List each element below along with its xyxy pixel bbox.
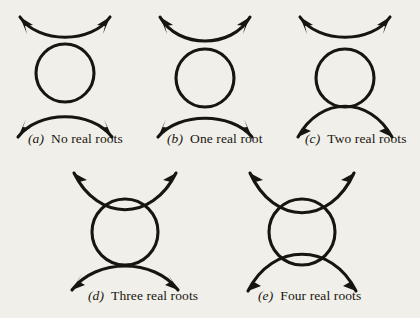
arrowhead-d-lower-left [72,274,85,290]
panel-b-diagram [140,0,280,148]
upper-arc-b [160,17,250,41]
upper-arc-c [300,17,390,37]
panel-one-real-root [140,0,280,148]
arrowheads-a [18,17,112,137]
upper-arc-e [250,173,354,213]
caption-tag-d: (d) [88,288,104,303]
arrowhead-d-upper-left [74,173,87,190]
caption-tag-c: (c) [305,131,320,146]
caption-text-e: Four real roots [280,288,361,303]
circle-c [316,49,374,107]
arrowheads-d [72,173,178,290]
arrowhead-a-upper-right [97,17,110,34]
arrowheads-e [248,173,356,291]
caption-text-b: One real root [190,131,263,146]
caption-panel-d: (d)Three real roots [88,288,198,304]
caption-panel-c: (c)Two real roots [305,131,406,147]
upper-arc-a [20,17,110,37]
lower-arc-e [248,254,356,291]
arrowhead-d-upper-right [163,173,176,190]
caption-panel-e: (e)Four real roots [258,288,361,304]
arrowhead-a-upper-left [20,17,33,34]
upper-arc-d [74,173,176,210]
caption-text-a: No real roots [51,131,123,146]
lower-arc-d [72,266,178,290]
panel-a-diagram [0,0,140,148]
caption-text-d: Three real roots [111,288,198,303]
arrowhead-c-upper-left [300,17,313,34]
circle-a [36,44,94,102]
caption-text-c: Two real roots [327,131,406,146]
arrowhead-c-upper-right [377,17,390,34]
panel-no-real-roots [0,0,140,148]
caption-tag-a: (a) [28,131,44,146]
caption-tag-b: (b) [167,131,183,146]
caption-panel-a: (a)No real roots [28,131,123,147]
caption-panel-b: (b)One real root [167,131,263,147]
circle-b [176,49,234,107]
roots-figure: (a)No real roots (b)One real root [0,0,420,318]
panel-two-real-roots [280,0,420,148]
panel-c-diagram [280,0,420,148]
caption-tag-e: (e) [258,288,273,303]
